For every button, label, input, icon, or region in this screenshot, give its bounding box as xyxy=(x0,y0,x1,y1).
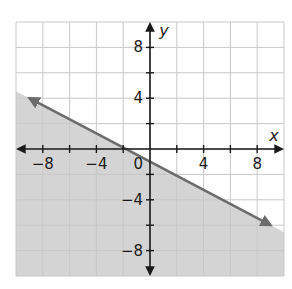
coordinate-plane: −8−44884−4−80xy xyxy=(0,0,292,289)
x-tick-label: −8 xyxy=(32,155,54,173)
origin-label: 0 xyxy=(133,155,143,173)
y-tick-label: 8 xyxy=(133,38,143,56)
y-tick-label: −8 xyxy=(121,242,143,260)
y-tick-label: 4 xyxy=(133,89,143,107)
x-tick-label: −4 xyxy=(85,155,107,173)
x-axis-label: x xyxy=(268,126,279,145)
x-tick-label: 8 xyxy=(252,155,262,173)
y-axis-label: y xyxy=(158,21,169,40)
y-tick-label: −4 xyxy=(121,191,143,209)
x-tick-label: 4 xyxy=(199,155,209,173)
